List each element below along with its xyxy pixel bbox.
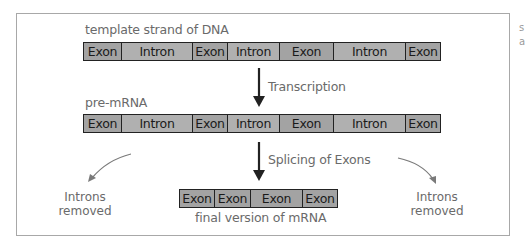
dna-strand: ExonIntronExonIntronExonIntronExon [83,42,441,61]
final-mrna-label: final version of mRNA [195,210,326,225]
transcription-arrow-icon [252,68,266,108]
exon-segment: Exon [406,43,440,60]
dna-strand-label: template strand of DNA [85,22,229,37]
exon-segment: Exon [406,115,440,132]
exon-segment: Exon [280,115,334,132]
splicing-label: Splicing of Exons [268,152,371,167]
exon-segment: Exon [180,190,215,207]
intron-segment: Intron [228,115,280,132]
introns-removed-left-arrow-icon [85,150,135,190]
pre-mrna-label: pre-mRNA [85,95,147,110]
exon-segment: Exon [280,43,334,60]
exon-segment: Exon [84,115,122,132]
pre-mrna-strand: ExonIntronExonIntronExonIntronExon [83,114,441,133]
edge-fragment-2: a [519,36,525,47]
intron-segment: Intron [334,43,406,60]
introns-removed-right-line1: Introns [402,190,472,204]
intron-segment: Intron [122,43,193,60]
exon-segment: Exon [193,115,228,132]
exon-segment: Exon [193,43,228,60]
exon-segment: Exon [215,190,251,207]
intron-segment: Intron [334,115,406,132]
transcription-label: Transcription [268,79,346,94]
introns-removed-right-text: Introns removed [402,190,472,218]
introns-removed-left-line2: removed [50,204,120,218]
intron-segment: Intron [228,43,280,60]
introns-removed-left-text: Introns removed [50,190,120,218]
exon-segment: Exon [303,190,337,207]
introns-removed-right-line2: removed [402,204,472,218]
exon-segment: Exon [251,190,303,207]
introns-removed-left-line1: Introns [50,190,120,204]
splicing-arrow-icon [252,142,266,182]
intron-segment: Intron [122,115,193,132]
final-mrna-strand: ExonExonExonExon [179,189,338,208]
exon-segment: Exon [84,43,122,60]
edge-fragment-1: s [519,22,524,33]
introns-removed-right-arrow-icon [395,155,440,190]
